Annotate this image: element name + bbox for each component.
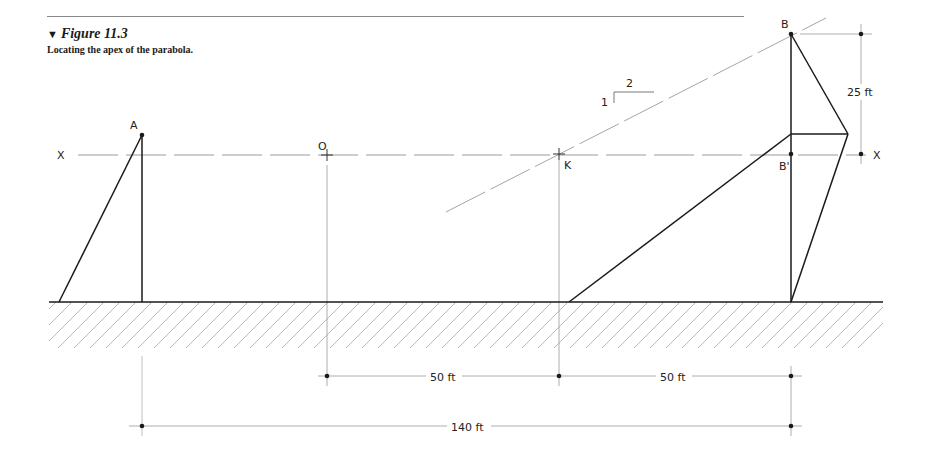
dim-dot-B-upper <box>789 374 794 379</box>
dim-dot-O <box>325 374 330 379</box>
structure-A <box>59 135 142 302</box>
slope-indicator <box>614 92 654 103</box>
point-A-dot <box>140 133 145 138</box>
slope-line <box>446 18 826 212</box>
ground-hatching <box>10 302 904 348</box>
dim-dot-25ft-top <box>859 32 864 37</box>
slope-run-label: 2 <box>626 77 633 90</box>
dim-label-K-to-B: 50 ft <box>660 371 686 384</box>
slope-rise-label: 1 <box>601 96 608 109</box>
point-B-prime-dot <box>789 152 794 157</box>
dim-label-25ft: 25 ft <box>847 86 873 99</box>
point-A-label: A <box>130 119 138 132</box>
parabola-apex-diagram: 1 2 A O K B B' X X 25 ft <box>0 0 928 458</box>
dim-dot-A <box>140 424 145 429</box>
structure-B <box>569 34 848 302</box>
axis-label-left: X <box>57 149 65 162</box>
point-O-label: O <box>318 140 327 153</box>
dim-dot-K <box>557 374 562 379</box>
dim-label-O-to-K: 50 ft <box>430 371 456 384</box>
dim-dot-B-lower <box>789 424 794 429</box>
axis-label-right: X <box>873 149 881 162</box>
point-B-label: B <box>781 18 789 31</box>
dim-label-A-to-B: 140 ft <box>451 421 484 434</box>
point-K-label: K <box>564 159 572 172</box>
point-B-dot <box>789 32 794 37</box>
dim-dot-25ft-bottom <box>859 152 864 157</box>
point-B-prime-label: B' <box>779 160 790 173</box>
